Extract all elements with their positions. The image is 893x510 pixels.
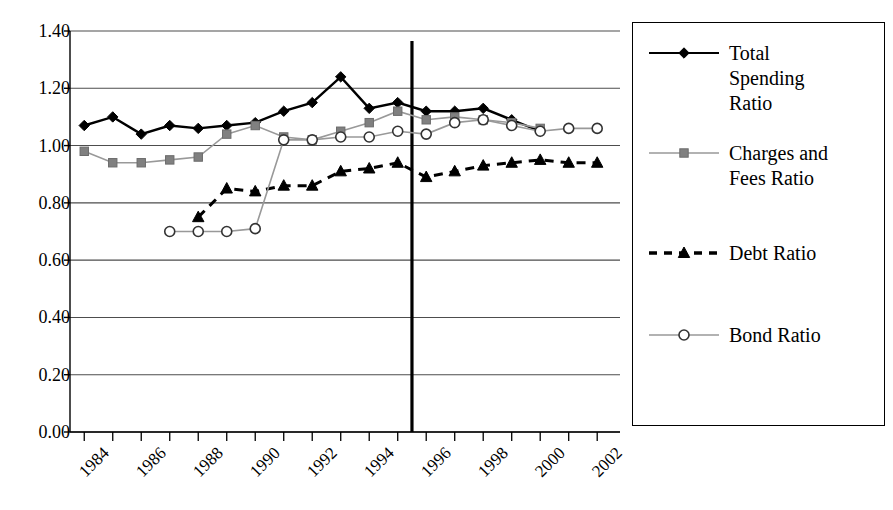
marker-circle-open <box>250 224 260 234</box>
chart-plot-region: 1.401.201.000.800.600.400.200.00 1984198… <box>0 0 640 510</box>
legend-label: Charges and Fees Ratio <box>729 141 828 191</box>
marker-circle-open <box>564 123 574 133</box>
marker-circle-open <box>336 132 346 142</box>
marker-diamond <box>478 103 488 113</box>
y-axis-tick-labels: 1.401.201.000.800.600.400.200.00 <box>0 0 70 450</box>
legend-marker-triangle-icon <box>647 241 721 263</box>
marker-diamond <box>222 120 232 130</box>
legend-sample-svg <box>647 323 721 345</box>
legend-marker-circle-open-icon <box>647 323 721 345</box>
marker-square <box>166 156 174 164</box>
chart-screenshot: 1.401.201.000.800.600.400.200.00 1984198… <box>0 0 893 510</box>
legend-entry-bond-ratio: Bond Ratio <box>647 323 821 348</box>
x-tick-label-1984: 1984 <box>15 444 112 510</box>
marker-diamond <box>279 106 289 116</box>
marker-circle-open <box>165 227 175 237</box>
marker-circle-open <box>307 135 317 145</box>
legend-sample-svg <box>647 41 721 63</box>
marker-circle-open <box>679 330 689 340</box>
marker-square <box>223 130 231 138</box>
marker-circle-open <box>222 227 232 237</box>
marker-diamond <box>108 112 118 122</box>
legend-marker-square-icon <box>647 141 721 163</box>
series-debt-ratio <box>193 154 603 222</box>
marker-square <box>194 153 202 161</box>
marker-square <box>422 116 430 124</box>
line-chart-svg <box>0 0 640 450</box>
marker-diamond <box>136 129 146 139</box>
marker-triangle <box>449 165 460 176</box>
chart-legend: Total Spending RatioCharges and Fees Rat… <box>632 22 885 426</box>
marker-circle-open <box>393 126 403 136</box>
marker-square <box>394 107 402 115</box>
marker-circle-open <box>421 129 431 139</box>
x-axis-tick-labels: 1984198619881990199219941996199820002002 <box>0 432 640 510</box>
marker-circle-open <box>507 121 517 131</box>
legend-sample-svg <box>647 241 721 263</box>
marker-circle-open <box>193 227 203 237</box>
marker-circle-open <box>450 118 460 128</box>
y-tick-label-1.40: 1.40 <box>8 22 70 40</box>
marker-diamond <box>421 106 431 116</box>
marker-circle-open <box>279 135 289 145</box>
legend-label: Bond Ratio <box>729 323 821 348</box>
legend-entry-charges-and: Charges and Fees Ratio <box>647 141 828 191</box>
legend-entry-total: Total Spending Ratio <box>647 41 805 116</box>
series-line <box>198 160 597 217</box>
marker-square <box>80 147 88 155</box>
marker-square <box>109 159 117 167</box>
y-tick-label-0.60: 0.60 <box>8 251 70 269</box>
y-tick-label-1.20: 1.20 <box>8 79 70 97</box>
marker-square <box>680 149 688 157</box>
marker-circle-open <box>478 115 488 125</box>
marker-square <box>365 118 373 126</box>
y-tick-label-1.00: 1.00 <box>8 137 70 155</box>
marker-diamond <box>393 97 403 107</box>
marker-circle-open <box>364 132 374 142</box>
legend-sample-svg <box>647 141 721 163</box>
marker-square <box>251 121 259 129</box>
legend-label: Debt Ratio <box>729 241 816 266</box>
marker-diamond <box>165 120 175 130</box>
legend-label: Total Spending Ratio <box>729 41 805 116</box>
marker-diamond <box>79 120 89 130</box>
marker-square <box>137 159 145 167</box>
series-line <box>170 120 597 232</box>
legend-marker-diamond-icon <box>647 41 721 63</box>
y-tick-label-0.40: 0.40 <box>8 308 70 326</box>
legend-entry-debt-ratio: Debt Ratio <box>647 241 816 266</box>
marker-triangle <box>221 183 232 194</box>
y-tick-label-0.80: 0.80 <box>8 194 70 212</box>
marker-triangle <box>392 157 403 168</box>
series-total-spending-ratio <box>79 72 545 140</box>
marker-circle-open <box>535 126 545 136</box>
y-tick-label-0.20: 0.20 <box>8 366 70 384</box>
marker-diamond <box>679 48 689 58</box>
marker-diamond <box>193 123 203 133</box>
marker-circle-open <box>592 123 602 133</box>
